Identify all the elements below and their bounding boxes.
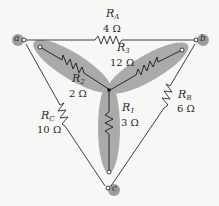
circuit-diagram: a b c RA 4 Ω R3 12 Ω R2 2 Ω RB 6 Ω R1 3 … — [0, 0, 219, 206]
node-b-label: b — [200, 33, 206, 43]
rb-name: RB — [178, 89, 191, 104]
rc-value: 10 Ω — [37, 124, 61, 135]
center-junction — [108, 89, 111, 92]
node-c-label: c — [112, 183, 117, 193]
r3-value: 12 Ω — [110, 57, 134, 68]
node-a-label: a — [14, 33, 19, 43]
r1-value: 3 Ω — [121, 117, 139, 128]
ra-name: RA — [106, 8, 119, 23]
r2-name: R2 — [72, 73, 85, 88]
ra-value: 4 Ω — [103, 23, 121, 34]
r1-name: R1 — [122, 102, 135, 117]
wye-lobes — [27, 31, 194, 173]
r2-value: 2 Ω — [69, 88, 87, 99]
rb-value: 6 Ω — [177, 103, 195, 114]
rc-name: RC — [41, 110, 55, 125]
r3-name: R3 — [117, 42, 130, 57]
